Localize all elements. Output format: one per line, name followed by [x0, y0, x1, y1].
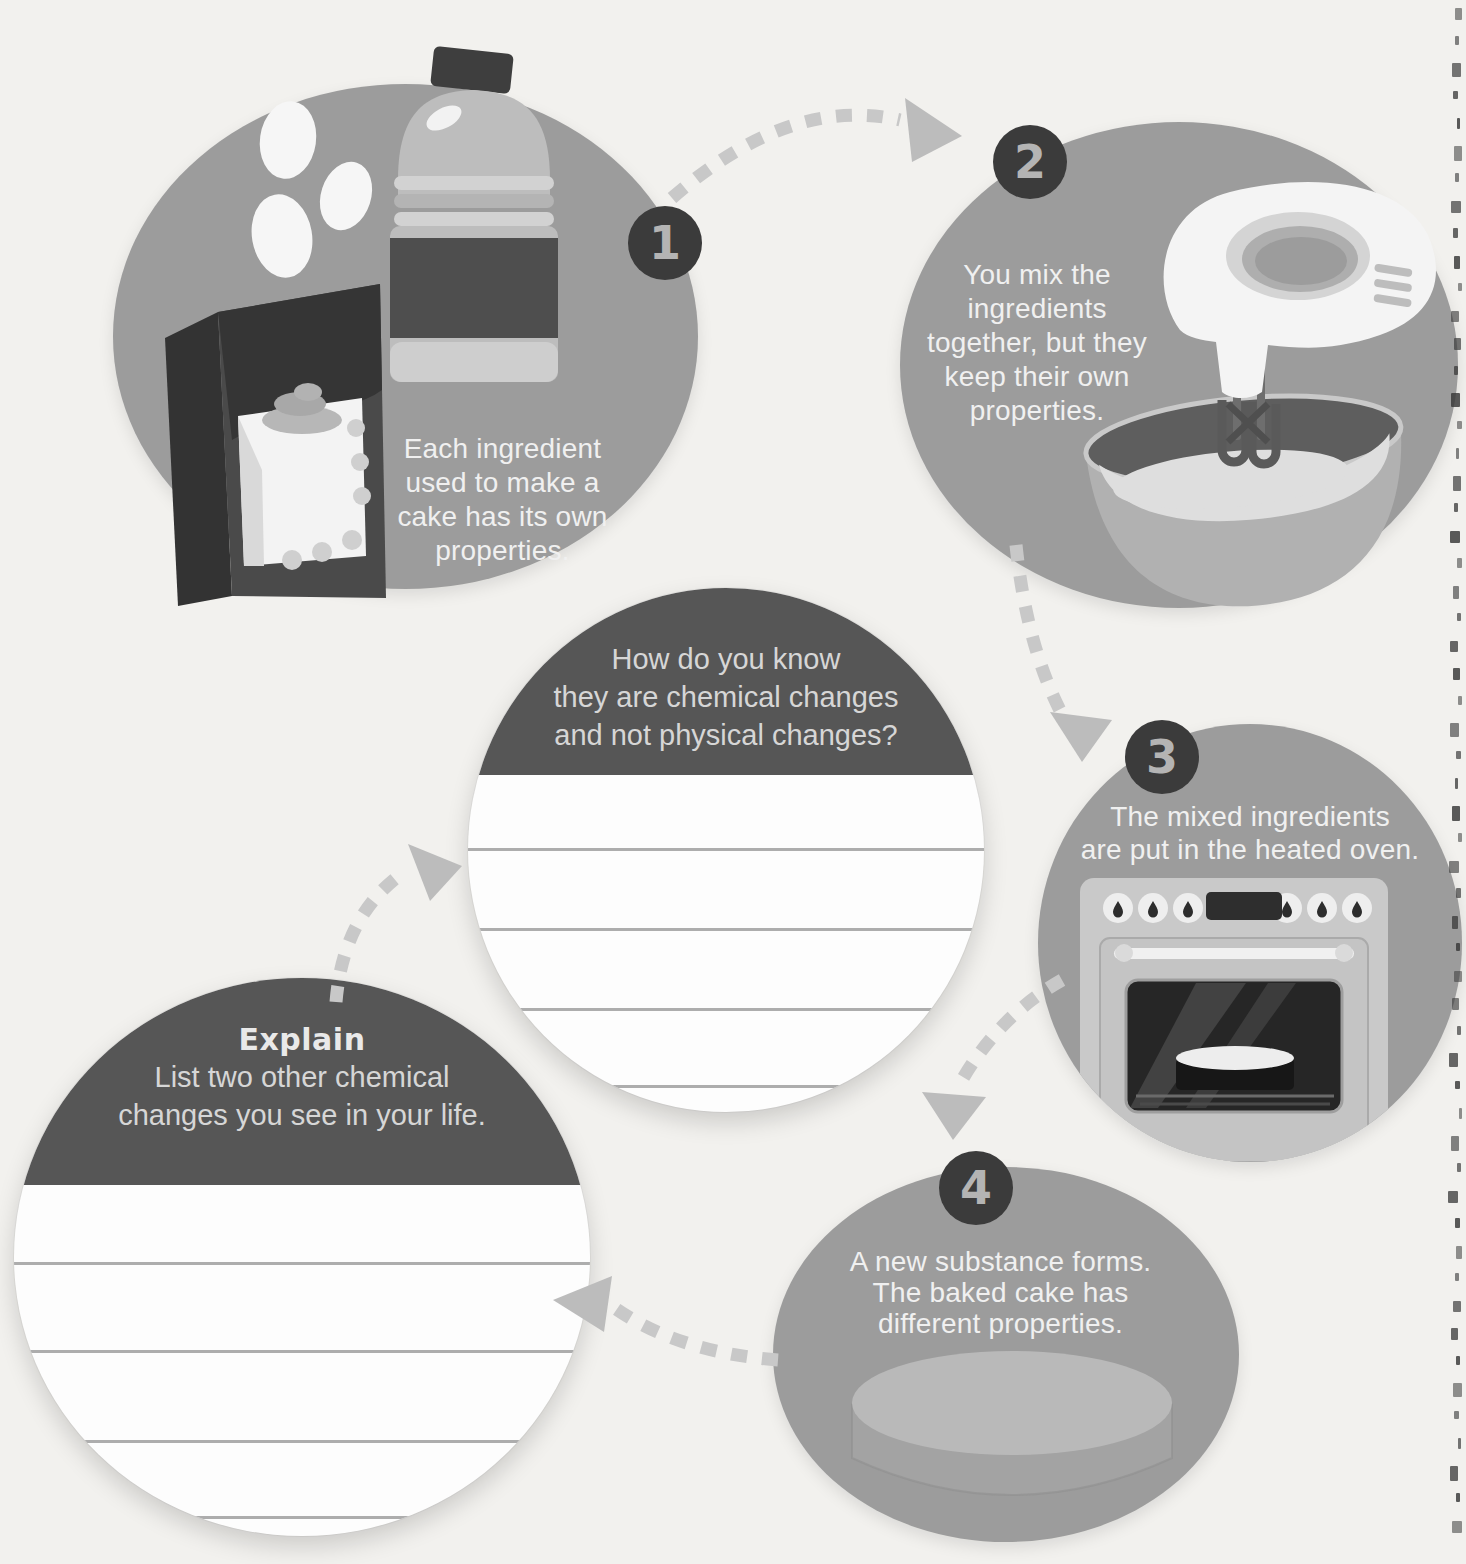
binding-mark [1455, 173, 1459, 182]
binding-mark [1454, 1411, 1459, 1419]
binding-mark [1452, 998, 1459, 1010]
binding-mark [1458, 1438, 1461, 1449]
binding-mark [1453, 91, 1458, 99]
binding-mark [1453, 228, 1458, 238]
step-number: 1 [649, 216, 681, 270]
binding-mark [1454, 366, 1458, 375]
binding-mark [1451, 201, 1461, 213]
binding-mark [1457, 1163, 1461, 1172]
step-3-bubble [1038, 724, 1462, 1162]
binding-mark [1454, 503, 1458, 512]
binding-mark [1456, 448, 1459, 459]
binding-mark [1449, 861, 1459, 873]
binding-mark [1450, 1466, 1458, 1481]
explain-heading: Explain [14, 1022, 590, 1058]
binding-mark [1453, 586, 1459, 599]
binding-mark [1459, 1108, 1462, 1119]
binding-mark [1455, 36, 1459, 45]
binding-mark [1454, 256, 1460, 269]
explain-prompt: List two other chemical [14, 1058, 590, 1096]
binding-mark [1457, 118, 1460, 129]
step-3-text: The mixed ingredients are put in the hea… [1055, 800, 1445, 866]
step-4-bubble [773, 1167, 1239, 1542]
binding-mark [1456, 888, 1461, 898]
page-binding-marks [1440, 0, 1466, 1564]
binding-mark [1452, 1521, 1462, 1533]
writing-line [14, 1440, 590, 1443]
binding-mark [1451, 1136, 1459, 1151]
step-4-text: A new substance forms. The baked cake ha… [828, 1246, 1173, 1339]
worksheet-page: { "page": { "description": "Science work… [0, 0, 1466, 1564]
binding-mark [1456, 1246, 1462, 1259]
binding-mark [1453, 1301, 1461, 1312]
explain-bubble: Explain List two other chemical changes … [14, 978, 590, 1536]
binding-mark [1449, 1053, 1458, 1067]
binding-mark [1458, 283, 1462, 291]
binding-mark [1457, 558, 1462, 568]
step-4-badge: 4 [939, 1151, 1013, 1225]
binding-mark [1448, 1191, 1458, 1203]
writing-line [14, 1350, 590, 1353]
step-3-badge: 3 [1125, 720, 1199, 794]
binding-mark [1456, 1356, 1460, 1365]
question-prompt: How do you know they are chemical change… [468, 640, 984, 754]
binding-mark [1452, 63, 1461, 77]
arrowhead-icon [922, 1092, 986, 1140]
binding-mark [1457, 613, 1461, 621]
arrow-step1-to-step2 [672, 115, 900, 198]
binding-mark [1452, 806, 1460, 821]
arrowhead-icon [905, 98, 962, 162]
binding-mark [1450, 723, 1459, 737]
step-2-badge: 2 [993, 125, 1067, 199]
writing-line [468, 848, 984, 851]
binding-mark [1450, 531, 1460, 543]
binding-mark [1454, 146, 1462, 161]
binding-mark [1456, 943, 1460, 951]
binding-mark [1453, 1383, 1462, 1397]
arrow-step4-to-explain [604, 1300, 778, 1360]
arrowhead-icon [408, 844, 462, 901]
binding-mark [1456, 1493, 1460, 1502]
binding-mark [1453, 476, 1461, 491]
step-1-badge: 1 [628, 206, 702, 280]
binding-mark [1451, 1328, 1458, 1340]
writing-line [468, 928, 984, 931]
writing-line [14, 1262, 590, 1265]
binding-mark [1454, 971, 1462, 982]
binding-mark [1450, 641, 1458, 652]
binding-mark [1453, 668, 1460, 680]
binding-mark [1456, 751, 1461, 759]
binding-mark [1458, 833, 1462, 842]
binding-mark [1455, 8, 1462, 20]
step-number: 4 [960, 1161, 992, 1215]
binding-mark [1454, 338, 1461, 350]
binding-mark [1452, 916, 1458, 929]
binding-mark [1451, 311, 1459, 322]
explain-header-text: Explain List two other chemical changes … [14, 1022, 590, 1134]
binding-mark [1455, 1273, 1459, 1281]
binding-mark [1455, 778, 1458, 789]
writing-line [14, 1516, 590, 1519]
binding-mark [1451, 393, 1460, 407]
binding-mark [1455, 1081, 1460, 1089]
binding-mark [1458, 696, 1462, 705]
binding-mark [1457, 421, 1462, 429]
step-number: 3 [1146, 730, 1178, 784]
binding-mark [1455, 1218, 1460, 1228]
step-2-text: You mix the ingredients together, but th… [912, 258, 1162, 428]
step-1-text: Each ingredient used to make a cake has … [385, 432, 620, 568]
arrowhead-icon [1050, 712, 1112, 762]
step-number: 2 [1014, 135, 1046, 189]
binding-mark [1457, 1026, 1461, 1035]
